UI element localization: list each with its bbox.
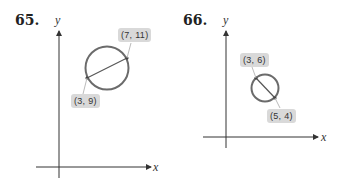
endpoint-label: (7, 11)	[118, 28, 151, 42]
leader-line	[275, 98, 280, 108]
x-axis-label: x	[153, 160, 158, 175]
endpoint-label: (3, 6)	[240, 53, 269, 67]
x-axis-label: x	[321, 130, 326, 145]
leader-line	[252, 67, 256, 78]
y-axis-label: y	[223, 13, 228, 28]
leader-line	[127, 43, 131, 58]
endpoint-label: (3, 9)	[71, 94, 100, 108]
diagram-canvas	[0, 0, 339, 182]
diameter	[256, 78, 275, 98]
diameter	[87, 58, 127, 78]
problem-66-graph	[203, 31, 318, 148]
endpoint-label: (5, 4)	[267, 109, 296, 123]
problem-number: 66.	[183, 12, 207, 28]
leader-line	[83, 78, 87, 94]
y-axis-label: y	[55, 13, 60, 28]
problem-number: 65.	[15, 12, 39, 28]
